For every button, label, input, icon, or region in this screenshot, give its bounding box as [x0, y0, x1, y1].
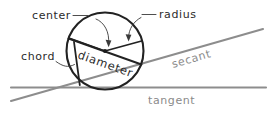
secant-line [11, 29, 263, 101]
center-arrowhead-icon [106, 40, 112, 47]
label-secant: secant [170, 47, 212, 71]
label-tangent: tangent [148, 94, 195, 107]
circle-parts-diagram: center radius chord diameter secant tang… [0, 0, 275, 115]
label-center: center [32, 9, 71, 22]
label-radius: radius [159, 8, 197, 21]
label-chord: chord [21, 50, 55, 63]
chord-leader-line [56, 62, 75, 67]
center-point-dot [103, 49, 107, 53]
diagram-canvas: center radius chord diameter secant tang… [0, 0, 275, 115]
radius-arrowhead-icon [126, 34, 132, 41]
